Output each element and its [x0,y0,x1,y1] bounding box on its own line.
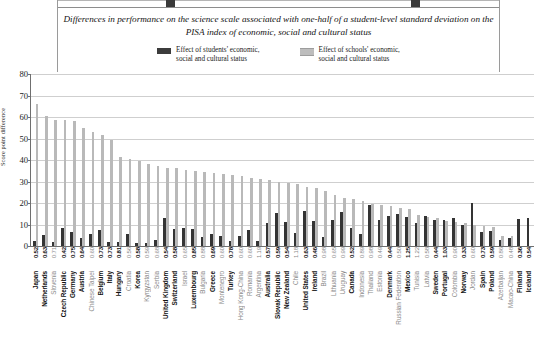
bar-schools-effect[interactable] [222,174,225,246]
bar-schools-effect[interactable] [287,183,290,246]
bar-group[interactable] [50,74,59,246]
bar-schools-effect[interactable] [64,120,67,246]
bar-group[interactable] [525,74,534,246]
bar-group[interactable] [338,74,347,246]
bar-group[interactable] [124,74,133,246]
bar-group[interactable] [320,74,329,246]
bar-group[interactable] [255,74,264,246]
bar-schools-effect[interactable] [92,132,95,246]
bar-schools-effect[interactable] [194,171,197,246]
bar-students-effect[interactable] [517,219,520,246]
bar-group[interactable] [40,74,49,246]
bar-group[interactable] [497,74,506,246]
bar-schools-effect[interactable] [473,225,476,247]
bar-schools-effect[interactable] [352,199,355,246]
bar-group[interactable] [282,74,291,246]
bar-schools-effect[interactable] [157,166,160,246]
bar-group[interactable] [357,74,366,246]
bar-group[interactable] [348,74,357,246]
bar-schools-effect[interactable] [54,120,57,246]
bar-group[interactable] [422,74,431,246]
bar-schools-effect[interactable] [334,195,337,246]
bar-group[interactable] [376,74,385,246]
bar-schools-effect[interactable] [296,184,299,246]
bar-schools-effect[interactable] [119,157,122,246]
bar-schools-effect[interactable] [101,135,104,246]
bar-group[interactable] [404,74,413,246]
bar-group[interactable] [310,74,319,246]
bar-group[interactable] [385,74,394,246]
bar-group[interactable] [78,74,87,246]
bar-schools-effect[interactable] [306,187,309,246]
bar-schools-effect[interactable] [259,179,262,246]
bar-group[interactable] [366,74,375,246]
bar-group[interactable] [329,74,338,246]
bar-schools-effect[interactable] [82,128,85,246]
bar-schools-effect[interactable] [492,227,495,246]
bar-group[interactable] [208,74,217,246]
bar-schools-effect[interactable] [110,140,113,246]
bar-schools-effect[interactable] [203,172,206,246]
bar-group[interactable] [273,74,282,246]
bar-schools-effect[interactable] [455,222,458,246]
bar-schools-effect[interactable] [380,205,383,246]
bar-schools-effect[interactable] [324,191,327,246]
bar-schools-effect[interactable] [371,204,374,246]
bar-group[interactable] [96,74,105,246]
bar-group[interactable] [217,74,226,246]
bar-group[interactable] [143,74,152,246]
bar-group[interactable] [68,74,77,246]
bar-group[interactable] [236,74,245,246]
bar-group[interactable] [515,74,524,246]
bar-group[interactable] [478,74,487,246]
bar-schools-effect[interactable] [464,223,467,246]
bar-schools-effect[interactable] [231,175,234,246]
bar-schools-effect[interactable] [241,176,244,246]
bar-group[interactable] [31,74,40,246]
bar-schools-effect[interactable] [436,218,439,246]
bar-group[interactable] [459,74,468,246]
bar-group[interactable] [115,74,124,246]
bar-schools-effect[interactable] [417,215,420,246]
bar-group[interactable] [199,74,208,246]
bar-schools-effect[interactable] [250,178,253,246]
bar-schools-effect[interactable] [445,221,448,246]
bar-schools-effect[interactable] [390,206,393,246]
bar-schools-effect[interactable] [129,159,132,246]
bar-schools-effect[interactable] [343,198,346,246]
bar-group[interactable] [227,74,236,246]
bar-schools-effect[interactable] [511,236,514,246]
bar-group[interactable] [106,74,115,246]
bar-group[interactable] [292,74,301,246]
bar-schools-effect[interactable] [278,182,281,247]
bar-schools-effect[interactable] [36,104,39,246]
bar-group[interactable] [245,74,254,246]
bar-group[interactable] [469,74,478,246]
bar-schools-effect[interactable] [501,236,504,246]
bar-group[interactable] [264,74,273,246]
bar-group[interactable] [441,74,450,246]
bar-students-effect[interactable] [527,218,530,246]
bar-group[interactable] [301,74,310,246]
bar-group[interactable] [506,74,515,246]
bar-schools-effect[interactable] [175,168,178,246]
bar-schools-effect[interactable] [45,116,48,246]
bar-schools-effect[interactable] [147,164,150,246]
bar-group[interactable] [161,74,170,246]
bar-schools-effect[interactable] [138,161,141,246]
bar-schools-effect[interactable] [73,121,76,246]
bar-group[interactable] [59,74,68,246]
bar-group[interactable] [133,74,142,246]
bar-schools-effect[interactable] [213,173,216,246]
bar-schools-effect[interactable] [362,201,365,246]
bar-schools-effect[interactable] [185,170,188,246]
bar-schools-effect[interactable] [268,180,271,246]
bar-schools-effect[interactable] [166,168,169,246]
bar-schools-effect[interactable] [315,188,318,246]
bar-schools-effect[interactable] [408,209,411,246]
bar-group[interactable] [152,74,161,246]
bar-group[interactable] [413,74,422,246]
bar-group[interactable] [189,74,198,246]
bar-schools-effect[interactable] [483,226,486,246]
bar-schools-effect[interactable] [427,217,430,246]
